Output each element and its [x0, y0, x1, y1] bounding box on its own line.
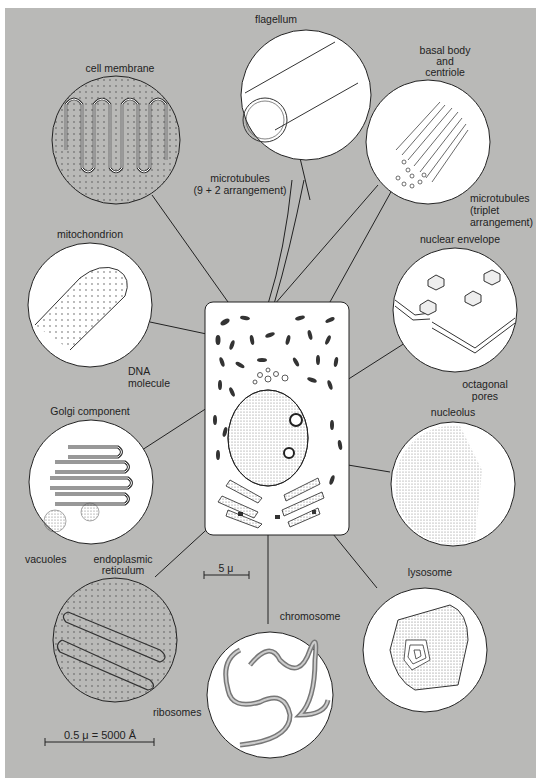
label-scale-magnified: 0.5 μ = 5000 Å [45, 729, 155, 741]
label-scale-cell: 5 μ [206, 562, 246, 574]
golgi-circle [29, 420, 153, 544]
label-basal-microtubules: microtubules [470, 192, 530, 204]
nuclear-envelope-circle [393, 248, 517, 372]
label-basal-arrangement: arrangement) [470, 216, 533, 228]
flagellum-circle [241, 30, 371, 160]
label-er-2: reticulum [83, 564, 163, 576]
label-dna-1: DNA [128, 365, 150, 377]
label-dna-2: molecule [128, 377, 170, 389]
label-flagellum: flagellum [244, 13, 308, 25]
label-chromosome: chromosome [275, 610, 345, 622]
cell [205, 302, 349, 535]
label-ribosomes: ribosomes [153, 706, 201, 718]
label-lysosome: lysosome [400, 566, 460, 578]
label-cell-membrane: cell membrane [70, 62, 170, 74]
label-nuclear-envelope: nuclear envelope [405, 233, 515, 245]
mitochondrion-circle [28, 243, 152, 367]
chromosome-circle [207, 632, 333, 758]
label-flagellum-arrangement: (9 + 2 arrangement) [185, 184, 295, 196]
label-mitochondrion: mitochondrion [40, 228, 140, 240]
label-golgi: Golgi component [35, 405, 145, 417]
label-flagellum-microtubules: microtubules [185, 172, 295, 184]
label-vacuoles: vacuoles [25, 553, 66, 565]
basal-body-circle [366, 80, 490, 204]
label-octagonal: octagonal [450, 378, 520, 390]
label-basal-body-3: centriole [410, 66, 480, 78]
label-nucleolus: nucleolus [418, 406, 488, 418]
cell-membrane-circle [52, 76, 180, 204]
label-basal-triplet: (triplet [470, 204, 499, 216]
er-circle [53, 578, 177, 702]
nucleolus-circle [391, 422, 515, 546]
lysosome-circle [363, 588, 487, 712]
label-pores: pores [450, 390, 520, 402]
